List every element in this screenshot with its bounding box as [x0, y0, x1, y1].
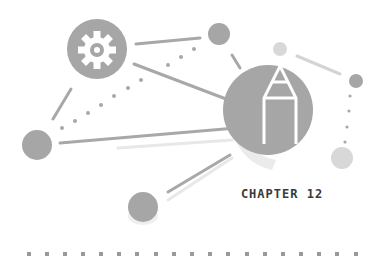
network-illustration: [0, 0, 384, 263]
faint-connector-lines: [118, 140, 232, 200]
dotted-divider: [27, 252, 358, 256]
node-left: [22, 130, 52, 160]
gear-node: [67, 19, 127, 79]
light-connector-line: [297, 56, 340, 74]
pencil-node: [223, 65, 313, 155]
small-node-top: [208, 23, 230, 45]
small-node-right: [349, 74, 363, 88]
tiny-light-node: [273, 42, 287, 56]
gear-icon: [78, 31, 116, 69]
light-node-right: [331, 147, 353, 169]
chapter-label: CHAPTER 12: [232, 187, 332, 201]
node-bottom: [128, 192, 158, 222]
